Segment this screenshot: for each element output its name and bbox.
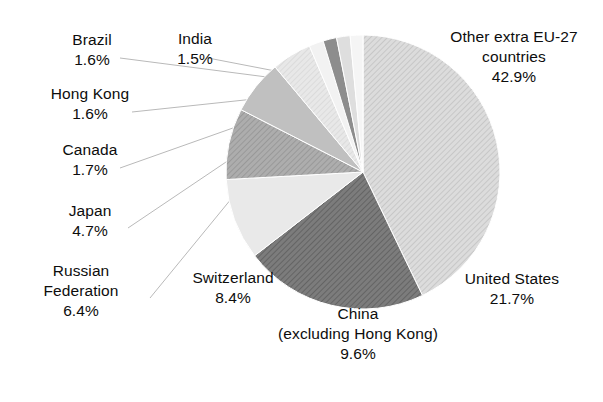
- pie-label-china: China (excluding Hong Kong) 9.6%: [258, 304, 458, 364]
- pie-label-united-states-name: United States: [432, 269, 592, 289]
- pie-label-japan-percent: 4.7%: [20, 221, 160, 241]
- pie-label-russian-federation-name-line1: Russian: [6, 261, 156, 281]
- pie-label-united-states: United States 21.7%: [432, 269, 592, 309]
- pie-label-switzerland-name: Switzerland: [158, 268, 308, 288]
- pie-label-canada-name: Canada: [20, 140, 160, 160]
- pie-label-japan-name: Japan: [20, 201, 160, 221]
- pie-label-hong-kong-name: Hong Kong: [10, 84, 170, 104]
- pie-label-china-percent: 9.6%: [258, 344, 458, 364]
- pie-label-canada: Canada 1.7%: [20, 140, 160, 180]
- pie-label-india-name: India: [140, 29, 250, 49]
- pie-label-other-percent: 42.9%: [430, 67, 598, 87]
- pie-label-china-name-line1: China: [258, 304, 458, 324]
- pie-label-hong-kong-percent: 1.6%: [10, 104, 170, 124]
- pie-chart-figure: Brazil 1.6% Hong Kong 1.6% Canada 1.7% J…: [0, 0, 603, 402]
- pie-label-united-states-percent: 21.7%: [432, 289, 592, 309]
- pie-label-other-name-line1: Other extra EU-27: [430, 27, 598, 47]
- pie-label-india-percent: 1.5%: [140, 49, 250, 69]
- pie-label-russian-federation: Russian Federation 6.4%: [6, 261, 156, 321]
- pie-label-switzerland: Switzerland 8.4%: [158, 268, 308, 308]
- pie-label-russian-federation-name-line2: Federation: [6, 281, 156, 301]
- pie-label-canada-percent: 1.7%: [20, 160, 160, 180]
- pie-label-china-name-line2: (excluding Hong Kong): [258, 324, 458, 344]
- pie-label-russian-federation-percent: 6.4%: [6, 301, 156, 321]
- pie-label-other-name-line2: countries: [430, 47, 598, 67]
- pie-label-india: India 1.5%: [140, 29, 250, 69]
- pie-label-hong-kong: Hong Kong 1.6%: [10, 84, 170, 124]
- pie-label-other-extra-eu-27-countries: Other extra EU-27 countries 42.9%: [430, 27, 598, 87]
- pie-label-japan: Japan 4.7%: [20, 201, 160, 241]
